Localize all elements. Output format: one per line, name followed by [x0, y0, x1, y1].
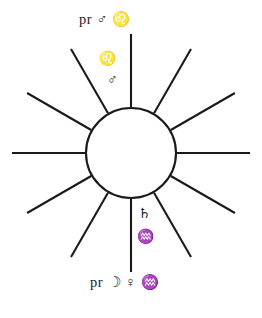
- sun-circle: [86, 108, 176, 198]
- ray-300deg: [154, 193, 191, 257]
- sun-radiant-graphic: [0, 0, 262, 318]
- ray-240deg: [71, 193, 108, 257]
- ray-30deg: [171, 93, 235, 130]
- ray-210deg: [27, 176, 91, 213]
- annotation-leo-symbol: ♌: [99, 52, 116, 67]
- ray-150deg: [27, 93, 91, 130]
- annotation-top-progressed-mars-leo: pr ♂ ♌: [79, 12, 131, 27]
- annotation-aquarius-symbol: ♒: [137, 230, 154, 245]
- annotation-saturn-symbol: ♄: [138, 207, 151, 222]
- sun-diagram-figure: pr ♂ ♌ ♌ ♂ ♄ ♒ pr ☽ ♀ ♒: [0, 0, 262, 318]
- ray-60deg: [154, 49, 191, 113]
- annotation-bottom-progressed-moon-venus-aquarius: pr ☽ ♀ ♒: [90, 275, 160, 290]
- annotation-mars-symbol: ♂: [107, 73, 118, 88]
- ray-330deg: [171, 176, 235, 213]
